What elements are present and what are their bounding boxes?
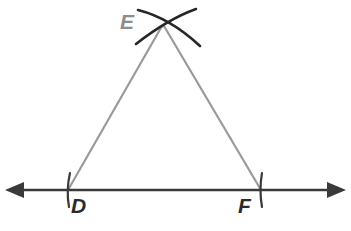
baseline-group bbox=[5, 182, 346, 198]
vertex-label-D: D bbox=[71, 195, 86, 216]
figure-canvas bbox=[0, 0, 351, 231]
arrow-right-icon bbox=[327, 182, 346, 198]
leg-EF-line bbox=[164, 26, 261, 190]
vertex-label-F: F bbox=[238, 195, 251, 216]
triangle-legs bbox=[68, 26, 261, 190]
construction-arcs bbox=[136, 9, 200, 46]
geometry-figure: E D F bbox=[0, 0, 351, 231]
arc-from-D bbox=[138, 10, 200, 46]
arrow-left-icon bbox=[5, 182, 24, 198]
arc-from-F bbox=[136, 9, 196, 44]
leg-DE-line bbox=[68, 26, 162, 190]
vertex-label-E: E bbox=[120, 11, 134, 32]
